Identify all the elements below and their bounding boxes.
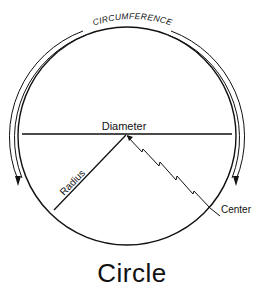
radius-label: Radius	[58, 167, 88, 197]
arrowhead-right-icon	[233, 176, 239, 186]
center-arrowhead-icon	[127, 135, 133, 141]
circumference-arrow	[9, 31, 244, 180]
diameter-label: Diameter	[102, 120, 147, 132]
radius-line	[54, 135, 126, 210]
diagram-title: Circle	[0, 258, 264, 289]
circumference-label: CIRCUMFERENCE	[91, 11, 173, 27]
center-pointer-line	[127, 136, 220, 216]
center-label: Center	[221, 204, 252, 215]
circle-diagram: CIRCUMFERENCE Diameter Radius Center	[0, 0, 264, 292]
arrowhead-left-icon	[15, 176, 21, 186]
